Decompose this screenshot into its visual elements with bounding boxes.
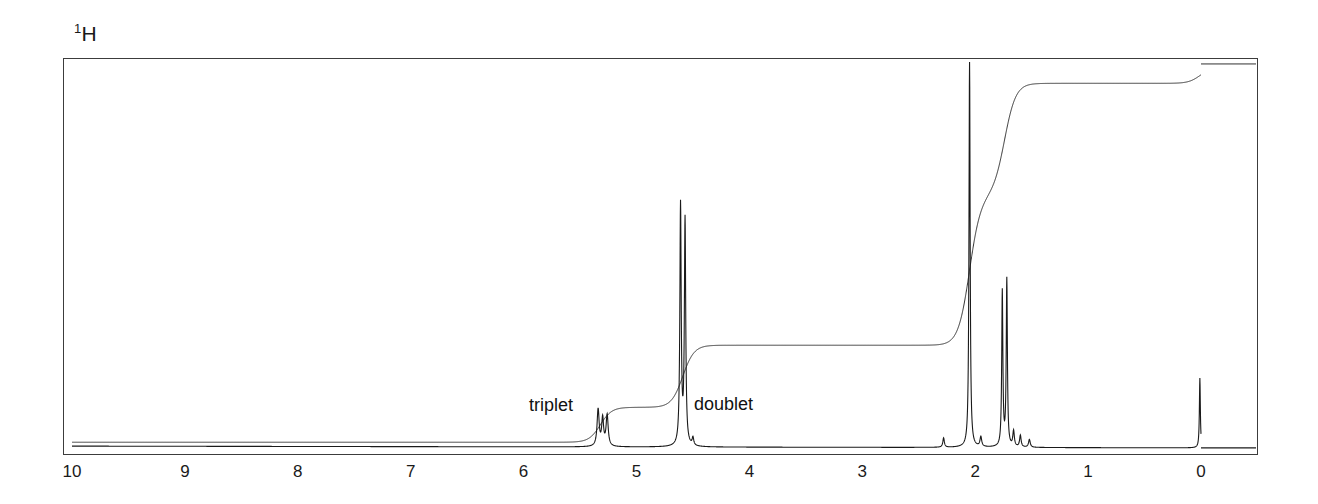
spectrum-plot-area bbox=[63, 58, 1258, 455]
spectrum-line bbox=[72, 62, 1201, 448]
nucleus-label: 1H bbox=[74, 22, 97, 46]
x-tick-label-1: 1 bbox=[1083, 462, 1092, 482]
x-tick-label-4: 4 bbox=[745, 462, 754, 482]
spectrum-trace bbox=[72, 62, 1256, 448]
x-tick-label-2: 2 bbox=[970, 462, 979, 482]
integral-line bbox=[72, 75, 1201, 442]
annotation-doublet: doublet bbox=[694, 394, 753, 415]
x-tick-label-6: 6 bbox=[519, 462, 528, 482]
x-tick-label-9: 9 bbox=[180, 462, 189, 482]
annotation-triplet: triplet bbox=[529, 395, 573, 416]
x-tick-label-3: 3 bbox=[858, 462, 867, 482]
x-tick-label-10: 10 bbox=[63, 462, 82, 482]
x-tick-label-7: 7 bbox=[406, 462, 415, 482]
x-tick-label-5: 5 bbox=[632, 462, 641, 482]
integral-trace bbox=[72, 64, 1256, 442]
x-tick-label-0: 0 bbox=[1196, 462, 1205, 482]
nmr-figure: 1H 109876543210 triplet doublet bbox=[0, 0, 1318, 504]
nucleus-symbol: H bbox=[81, 22, 96, 45]
x-tick-label-8: 8 bbox=[293, 462, 302, 482]
